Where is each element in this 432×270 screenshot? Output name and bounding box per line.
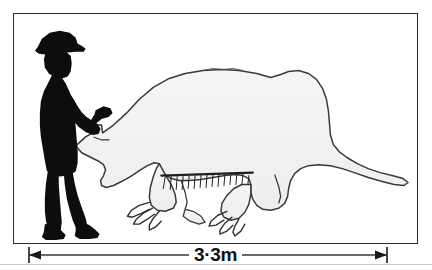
bottom-divider [0, 264, 432, 265]
scale-bar: 3·3m [13, 244, 418, 266]
size-comparison-figure: 3·3m [0, 0, 432, 270]
sloth-hind-leg [221, 185, 251, 221]
man-far-leg [64, 173, 88, 230]
man-head [44, 51, 72, 79]
scale-measurement-text: 3·3m [189, 244, 242, 265]
scene-drawing [14, 14, 417, 243]
hat-icon [35, 31, 86, 55]
hammer-icon [90, 106, 113, 127]
sloth-far-front-foot [183, 209, 205, 224]
scale-measurement-label: 3·3m [13, 244, 418, 266]
illustration-frame [13, 13, 418, 244]
man-near-boot [42, 223, 66, 240]
man-torso [40, 75, 78, 176]
man-near-leg [45, 171, 62, 231]
giant-ground-sloth-outline [76, 69, 408, 237]
man-far-boot [75, 222, 100, 239]
